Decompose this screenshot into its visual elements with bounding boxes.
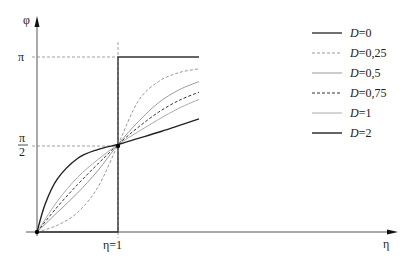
center-point <box>116 144 120 148</box>
y-tick-pi: π <box>18 50 24 64</box>
y-tick-half-pi-den: 2 <box>19 145 25 159</box>
legend: D=0D=0,25D=0,5D=0,75D=1D=2 <box>312 26 386 140</box>
legend-label: D=1 <box>349 106 371 120</box>
phase-chart: φ π π 2 η=1 η D=0D=0,25D=0,5D=0,75D=1D=2 <box>0 0 410 267</box>
y-tick-half-pi-num: π <box>19 131 25 145</box>
legend-label: D=0 <box>349 26 371 40</box>
origin-point <box>35 230 39 234</box>
legend-label: D=0,5 <box>349 66 380 80</box>
legend-label: D=2 <box>349 126 371 140</box>
x-tick-eta1: η=1 <box>103 238 122 252</box>
legend-label: D=0,75 <box>349 86 386 100</box>
y-axis-label: φ <box>23 13 30 27</box>
reference-lines <box>32 42 118 238</box>
axes <box>26 16 398 236</box>
x-axis-label: η <box>383 237 389 251</box>
x-axis-arrow-icon <box>387 230 398 235</box>
y-axis-arrow-icon <box>35 16 40 27</box>
legend-label: D=0,25 <box>349 46 386 60</box>
